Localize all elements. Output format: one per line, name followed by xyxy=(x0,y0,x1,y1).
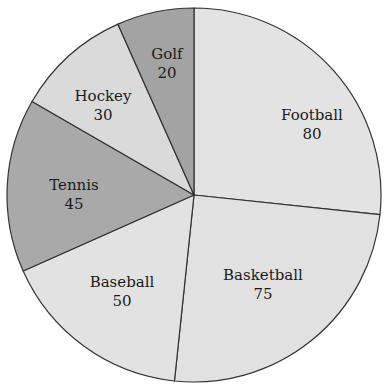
slice-name: Tennis xyxy=(49,176,99,194)
slice-value: 50 xyxy=(112,292,131,310)
slice-value: 45 xyxy=(64,195,83,213)
slice-name: Football xyxy=(281,106,343,124)
slice-name: Hockey xyxy=(75,87,132,105)
pie-slices xyxy=(7,8,381,382)
pie-chart: Football80 Basketball75 Baseball50 Tenni… xyxy=(0,0,384,391)
slice-name: Golf xyxy=(151,45,184,63)
slice-name: Basketball xyxy=(223,266,303,284)
slice-name: Baseball xyxy=(90,273,155,291)
slice-value: 30 xyxy=(93,106,112,124)
slice-value: 75 xyxy=(253,285,272,303)
slice-value: 20 xyxy=(157,64,176,82)
pie-slice-basketball xyxy=(174,195,380,382)
slice-value: 80 xyxy=(302,125,321,143)
